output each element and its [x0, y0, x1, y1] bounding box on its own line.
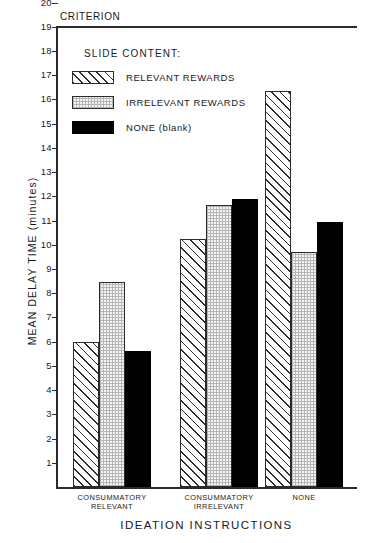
legend-title: SLIDE CONTENT:: [84, 48, 312, 59]
bar-irrelevant-group-1: [99, 282, 125, 487]
bar-irrelevant-group-3: [291, 252, 317, 487]
bar-relevant-group-2: [180, 239, 206, 487]
bar-none-group-1: [125, 351, 151, 487]
bar-chart-figure: CRITERION 201918171615141312111098765432…: [0, 0, 372, 543]
legend-swatch-irrelevant: [72, 96, 114, 109]
bar-irrelevant-group-2: [206, 205, 232, 487]
legend-swatch-relevant: [72, 71, 114, 84]
legend-swatch-none: [72, 121, 114, 134]
legend-label: RELEVANT REWARDS: [126, 72, 235, 83]
bar-relevant-group-1: [73, 342, 99, 487]
legend-label: NONE (blank): [126, 122, 192, 133]
legend-label: IRRELEVANT REWARDS: [126, 97, 246, 108]
legend-item: IRRELEVANT REWARDS: [72, 95, 312, 110]
legend-item: NONE (blank): [72, 120, 312, 135]
x-axis-title: IDEATION INSTRUCTIONS: [56, 519, 357, 531]
x-group-label: CONSUMMATORY RELEVANT: [62, 493, 162, 511]
x-group-label: NONE: [254, 493, 354, 502]
legend: SLIDE CONTENT: RELEVANT REWARDSIRRELEVAN…: [72, 48, 312, 145]
legend-item: RELEVANT REWARDS: [72, 70, 312, 85]
legend-rows: RELEVANT REWARDSIRRELEVANT REWARDSNONE (…: [72, 70, 312, 135]
bar-none-group-2: [232, 199, 258, 487]
bar-none-group-3: [317, 222, 343, 487]
bar-relevant-group-3: [265, 91, 291, 487]
